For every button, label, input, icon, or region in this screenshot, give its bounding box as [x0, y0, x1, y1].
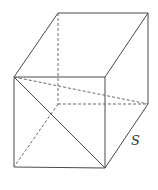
- space-diagonal: [14, 77, 148, 104]
- edge-front-bottom: [14, 167, 105, 168]
- cube-svg: S: [0, 0, 158, 190]
- edge-bottom-right-depth: [105, 104, 148, 168]
- edge-top-right-depth: [105, 13, 148, 77]
- cube-diagram: S: [0, 0, 158, 190]
- face-diagonal: [14, 77, 105, 168]
- hidden-edge-bottom-left-depth: [14, 104, 58, 167]
- edge-top-left-depth: [14, 13, 58, 77]
- edge-label-s: S: [131, 133, 140, 148]
